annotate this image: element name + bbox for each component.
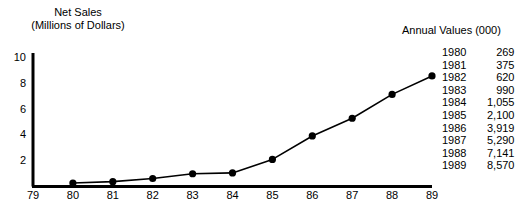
y-tick-label: 4	[4, 129, 26, 140]
table-cell-value: 620	[476, 71, 514, 84]
table-row: 1980269	[442, 46, 514, 59]
y-tick-label: 6	[4, 104, 26, 115]
table-row: 19863,919	[442, 122, 514, 135]
x-tick-label: 82	[141, 190, 165, 201]
table-cell-year: 1982	[442, 71, 476, 84]
table-cell-year: 1986	[442, 122, 476, 135]
x-tick-label: 79	[21, 190, 45, 201]
table-cell-year: 1983	[442, 84, 476, 97]
data-point	[349, 115, 356, 122]
table-cell-year: 1980	[442, 46, 476, 59]
data-point	[229, 169, 236, 176]
y-tick-label: 2	[4, 155, 26, 166]
annual-values-panel: Annual Values (000) 19802691981375198262…	[400, 24, 521, 172]
table-row: 1983990	[442, 84, 514, 97]
chart-title-units: (Millions of Dollars)	[8, 19, 148, 32]
data-point	[269, 156, 276, 163]
table-cell-value: 3,919	[476, 122, 514, 135]
line-chart-svg	[0, 40, 440, 195]
plot-area: 246810	[0, 40, 440, 195]
table-cell-value: 8,570	[476, 159, 514, 172]
y-tick-label: 10	[4, 52, 26, 63]
table-cell-value: 269	[476, 46, 514, 59]
table-row: 19852,100	[442, 109, 514, 122]
table-cell-value: 2,100	[476, 109, 514, 122]
table-row: 1981375	[442, 59, 514, 72]
data-point	[389, 91, 396, 98]
table-row: 19887,141	[442, 147, 514, 160]
x-tick-label: 81	[101, 190, 125, 201]
series-markers-net-sales	[69, 72, 435, 186]
table-cell-year: 1985	[442, 109, 476, 122]
x-tick-label: 87	[340, 190, 364, 201]
table-cell-value: 7,141	[476, 147, 514, 160]
data-point	[69, 179, 76, 186]
x-tick-label: 88	[380, 190, 404, 201]
x-tick-label: 80	[61, 190, 85, 201]
table-cell-value: 990	[476, 84, 514, 97]
table-cell-year: 1988	[442, 147, 476, 160]
table-cell-value: 1,055	[476, 96, 514, 109]
series-line-net-sales	[73, 76, 432, 183]
x-tick-label: 89	[420, 190, 444, 201]
chart-title-main: Net Sales	[8, 6, 148, 19]
annual-values-heading: Annual Values (000)	[402, 24, 521, 37]
table-cell-value: 5,290	[476, 134, 514, 147]
table-row: 19898,570	[442, 159, 514, 172]
table-cell-year: 1981	[442, 59, 476, 72]
chart-title: Net Sales (Millions of Dollars)	[8, 6, 148, 32]
table-cell-year: 1987	[442, 134, 476, 147]
data-point	[109, 178, 116, 185]
table-cell-year: 1989	[442, 159, 476, 172]
table-row: 19841,055	[442, 96, 514, 109]
x-tick-label: 86	[300, 190, 324, 201]
table-row: 1982620	[442, 71, 514, 84]
x-tick-label: 83	[181, 190, 205, 201]
annual-values-table: 198026919813751982620198399019841,055198…	[442, 46, 514, 172]
data-point	[189, 170, 196, 177]
net-sales-figure: Net Sales (Millions of Dollars) 246810 7…	[0, 0, 521, 210]
table-row: 19875,290	[442, 134, 514, 147]
table-cell-value: 375	[476, 59, 514, 72]
table-cell-year: 1984	[442, 96, 476, 109]
x-tick-label: 85	[260, 190, 284, 201]
data-point	[149, 175, 156, 182]
x-tick-label: 84	[221, 190, 245, 201]
data-point	[309, 132, 316, 139]
y-tick-label: 8	[4, 78, 26, 89]
